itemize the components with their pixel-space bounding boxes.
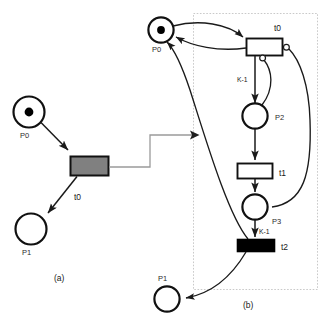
token-a-p0	[25, 108, 34, 117]
transition-b-t2-label: t2	[281, 242, 288, 252]
transition-a-t0	[71, 157, 109, 176]
place-b-p2-label: P2	[275, 113, 284, 122]
transition-b-t0	[247, 39, 283, 56]
inhibitor-arc-b-p2-to-t0	[260, 55, 271, 105]
inhibitor-arc-b-p3-to-t0	[272, 44, 310, 207]
arc-weight-b-p3-t2: K-1	[259, 228, 270, 235]
arc-weight-b-t0-p2: K-1	[237, 76, 248, 83]
caption-b: (b)	[243, 300, 254, 310]
transition-b-t1-label: t1	[279, 168, 286, 178]
transition-b-t1	[238, 164, 273, 179]
place-a-p1	[16, 214, 47, 245]
arc-b-t0-to-p0	[176, 37, 246, 49]
transition-b-t0-label: t0	[274, 23, 281, 33]
transition-a-t0-label: t0	[74, 192, 81, 202]
inhibitor-dot-p3-t0	[284, 44, 290, 50]
inhibitor-dot-p2-t0	[260, 55, 266, 61]
place-b-p3	[242, 194, 267, 219]
place-b-p3-label: P3	[272, 217, 281, 226]
place-a-p0-label: P0	[20, 131, 29, 140]
place-a-p1-label: P1	[22, 248, 31, 257]
place-b-p0-label: P0	[152, 45, 161, 54]
place-b-p1-label: P1	[158, 274, 167, 283]
petri-net-svg: P0 t0 P1 (a) P0 t0 K-1 P2	[0, 0, 330, 334]
token-b-p0	[157, 26, 165, 34]
arc-b-t2-to-p1	[186, 252, 246, 298]
caption-a: (a)	[54, 273, 65, 283]
transition-b-t2	[238, 240, 275, 252]
place-b-p1	[154, 286, 179, 311]
place-b-p0	[148, 17, 173, 42]
place-a-p0	[14, 97, 45, 128]
figure-canvas: P0 t0 P1 (a) P0 t0 K-1 P2	[0, 0, 330, 334]
arc-b-t2-to-p0	[167, 42, 248, 239]
refinement-connector-arrow	[109, 131, 200, 167]
arc-b-p0-to-t0	[173, 23, 243, 37]
arc-a-p0-to-t0	[41, 122, 69, 150]
place-b-p2	[242, 103, 267, 128]
arc-a-t0-to-p1	[48, 177, 77, 214]
